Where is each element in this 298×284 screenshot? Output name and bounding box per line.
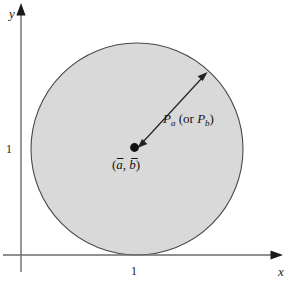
center-point-dot — [130, 143, 139, 152]
radius-label-p1: P — [162, 111, 171, 126]
center-point-label: (a, b) — [112, 157, 140, 172]
radius-label-or: (or — [175, 111, 197, 126]
y-axis-label: y — [7, 6, 15, 21]
radius-label-close: ) — [210, 111, 214, 126]
figure-container: y x 1 1 Pa (or Pb) (a, b) — [0, 0, 298, 284]
y-axis-tick-label: 1 — [6, 142, 12, 156]
x-axis-arrowhead — [271, 250, 284, 259]
x-axis-tick-label: 1 — [131, 264, 137, 278]
center-label-close: ) — [136, 157, 140, 172]
figure-svg: y x 1 1 Pa (or Pb) (a, b) — [0, 0, 298, 284]
radius-label-p2: P — [196, 111, 205, 126]
y-axis-arrowhead — [16, 3, 25, 16]
x-axis-label: x — [277, 264, 284, 279]
